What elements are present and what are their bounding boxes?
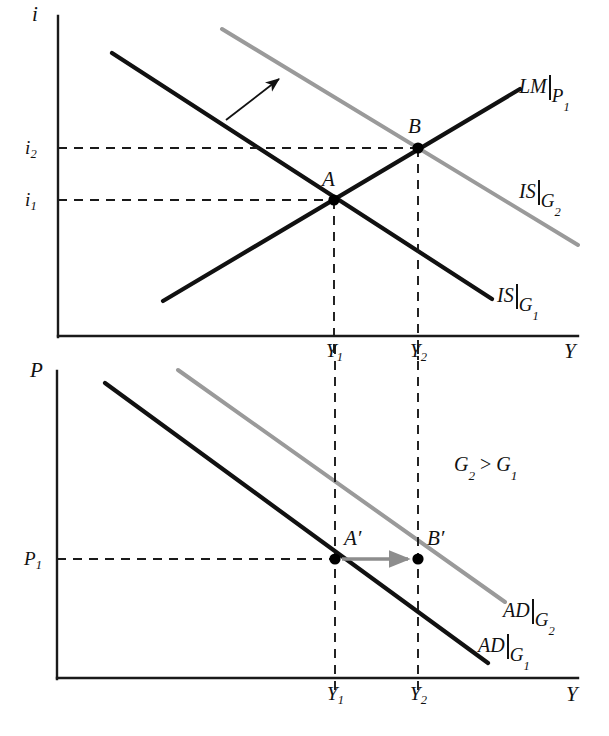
curve-label-ad-g2-sub-base: G — [535, 609, 549, 630]
curve-label-ad-g2: ADG2 — [503, 599, 555, 624]
annotation-g1-sub: 1 — [511, 468, 518, 483]
tick-label-p1: P1 — [24, 549, 42, 568]
annotation-g2-sub: 2 — [468, 468, 475, 483]
tick-label-y1-bottom: Y1 — [327, 684, 344, 703]
curve-label-is-g1-sub-idx: 1 — [532, 309, 538, 323]
curve-label-ad-g1: ADG1 — [478, 634, 530, 659]
tick-label-i1-base: i — [25, 189, 30, 210]
annotation-g2-base: G — [454, 453, 468, 475]
tick-label-i1: i1 — [25, 190, 37, 209]
curve-label-lm-sub: P1 — [552, 86, 570, 109]
curve-label-is-g1: ISG1 — [497, 284, 539, 309]
point-label-a-prime: A′ — [344, 528, 361, 549]
curve-label-is-g2-main: IS — [519, 181, 536, 201]
tick-label-y1-bottom-sub: 1 — [338, 693, 344, 707]
curve-label-is-g2: ISG2 — [519, 180, 561, 205]
equilibrium-point-a — [328, 194, 339, 205]
annotation-g2-greater-g1: G2 > G1 — [454, 453, 517, 480]
curve-label-ad-g2-sub: G2 — [535, 610, 555, 633]
tick-label-y2-bottom: Y2 — [410, 684, 427, 703]
equilibrium-point-b — [412, 142, 423, 153]
tick-label-y2-bottom-base: Y — [410, 683, 421, 704]
curve-label-is-g2-sub-base: G — [541, 190, 555, 211]
tick-label-y2-bottom-sub: 2 — [421, 693, 427, 707]
equilibrium-point-a-prime — [329, 553, 340, 564]
curve-label-ad-g1-sub: G1 — [510, 645, 530, 668]
curve-label-ad-g1-bar — [507, 634, 509, 659]
curve-label-ad-g2-main: AD — [503, 600, 530, 620]
point-label-b: B — [408, 116, 421, 137]
curve-label-lm-p1: LMP1 — [519, 75, 570, 100]
annotation-g1-base: G — [496, 453, 510, 475]
curve-label-ad-g2-bar — [532, 599, 534, 624]
point-label-b-prime: B′ — [427, 528, 444, 549]
curve-is-g1 — [112, 53, 492, 299]
axis-label-y-bottom: Y — [566, 684, 578, 705]
curve-label-is-g1-bar — [516, 284, 518, 309]
tick-label-y1-top: Y1 — [326, 341, 343, 360]
axis-label-y-top: Y — [564, 341, 576, 362]
curve-label-lm-bar — [549, 75, 551, 100]
curve-label-is-g2-sub-idx: 2 — [554, 205, 560, 219]
annotation-operator: > — [480, 453, 491, 475]
tick-label-i2: i2 — [25, 138, 37, 157]
economics-figure: i i2 i1 A B LMP1 ISG2 ISG1 Y1 Y2 Y P P1 … — [0, 0, 609, 736]
tick-label-y1-bottom-base: Y — [327, 683, 338, 704]
axis-label-p: P — [30, 360, 43, 381]
tick-label-y1-top-base: Y — [326, 340, 337, 361]
figure-canvas — [0, 0, 609, 736]
curve-label-is-g1-sub-base: G — [519, 294, 533, 315]
curve-label-ad-g1-main: AD — [478, 635, 505, 655]
curve-ad-g1 — [105, 383, 488, 663]
curve-label-is-g1-sub: G1 — [519, 295, 539, 318]
curve-label-ad-g1-sub-idx: 1 — [523, 659, 529, 673]
curve-label-is-g2-bar — [538, 180, 540, 205]
curve-label-ad-g2-sub-idx: 2 — [548, 624, 554, 638]
curve-is-g2 — [222, 29, 578, 245]
curve-label-lm-main: LM — [519, 76, 547, 96]
curve-label-is-g1-main: IS — [497, 285, 514, 305]
curve-label-lm-sub-base: P — [552, 85, 564, 106]
tick-label-i1-sub: 1 — [31, 199, 37, 213]
tick-label-y2-top-base: Y — [410, 340, 421, 361]
tick-label-y2-top: Y2 — [410, 341, 427, 360]
point-label-a: A — [322, 169, 335, 190]
curve-ad-g2 — [178, 370, 505, 602]
tick-label-y1-top-sub: 1 — [337, 350, 343, 364]
tick-label-p1-base: P — [24, 548, 36, 569]
tick-label-i2-sub: 2 — [31, 147, 37, 161]
tick-label-i2-base: i — [25, 137, 30, 158]
tick-label-p1-sub: 1 — [36, 558, 42, 572]
curve-label-is-g2-sub: G2 — [541, 191, 561, 214]
curve-label-lm-sub-idx: 1 — [563, 100, 569, 114]
tick-label-y2-top-sub: 2 — [421, 350, 427, 364]
axis-label-i: i — [32, 4, 38, 25]
curve-label-ad-g1-sub-base: G — [510, 644, 524, 665]
equilibrium-point-b-prime — [412, 553, 423, 564]
is-shift-arrow — [226, 79, 279, 120]
